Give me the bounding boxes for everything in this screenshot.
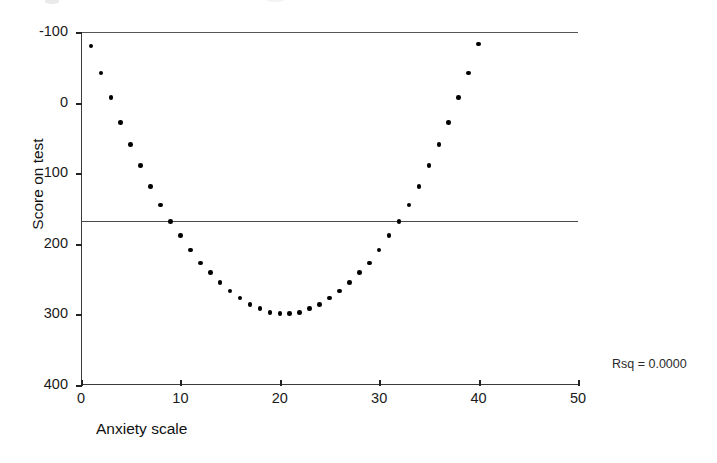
x-axis-tick-label: 30	[354, 390, 404, 406]
scatter-point	[178, 233, 183, 238]
scatter-point	[268, 310, 273, 315]
x-axis-title: Anxiety scale	[96, 420, 187, 438]
scatter-point	[278, 311, 283, 316]
x-axis-tick-label: 10	[155, 390, 205, 406]
x-axis-tick	[280, 380, 282, 386]
scatter-point	[248, 302, 253, 307]
x-axis-tick-label: 20	[255, 390, 305, 406]
scatter-point	[417, 184, 422, 189]
scatter-point	[466, 71, 471, 76]
scatter-point	[188, 248, 193, 253]
scatter-point	[138, 163, 143, 168]
y-axis-tick-label: 300	[6, 305, 68, 321]
y-axis-tick	[76, 314, 82, 316]
scan-artifact	[266, 0, 284, 2]
x-axis-tick	[81, 380, 83, 386]
scatter-point	[208, 270, 213, 275]
y-axis-tick	[76, 32, 82, 34]
x-axis-tick	[578, 380, 580, 386]
y-axis-tick	[76, 103, 82, 105]
chart-figure: 4003002001000-100 01020304050 Score on t…	[0, 0, 717, 463]
y-axis-tick	[76, 244, 82, 246]
x-axis-tick-label: 40	[454, 390, 504, 406]
scatter-point	[367, 261, 372, 266]
scatter-point	[118, 120, 123, 125]
scatter-point	[446, 120, 451, 125]
scatter-point	[128, 142, 133, 147]
rsq-annotation: Rsq = 0.0000	[612, 357, 687, 371]
scatter-point	[297, 310, 302, 315]
y-axis-tick-label: -100	[6, 23, 68, 39]
x-axis-tick-label: 50	[553, 390, 603, 406]
scatter-point	[437, 142, 442, 147]
y-axis-tick	[76, 173, 82, 175]
scatter-point	[387, 233, 392, 238]
x-axis-tick-label: 0	[56, 390, 106, 406]
plot-area	[81, 32, 578, 385]
scatter-point	[148, 184, 153, 189]
y-axis-title: Score on test	[29, 84, 47, 284]
scatter-point	[307, 306, 312, 311]
scatter-point	[198, 261, 203, 266]
scatter-point	[476, 42, 481, 47]
scan-artifact	[45, 0, 59, 4]
scatter-point	[397, 219, 402, 224]
scatter-point	[168, 219, 173, 224]
x-axis-tick	[180, 380, 182, 386]
scatter-point	[287, 311, 292, 316]
scatter-point	[109, 95, 114, 100]
scatter-point	[337, 289, 342, 294]
x-axis-tick	[379, 380, 381, 386]
scatter-point	[347, 280, 352, 285]
x-axis-tick	[479, 380, 481, 386]
scatter-point	[317, 302, 322, 307]
scatter-point	[158, 203, 163, 208]
regression-reference-line	[81, 221, 578, 222]
scatter-point	[357, 270, 362, 275]
scatter-point	[456, 95, 461, 100]
scatter-point	[427, 163, 432, 168]
